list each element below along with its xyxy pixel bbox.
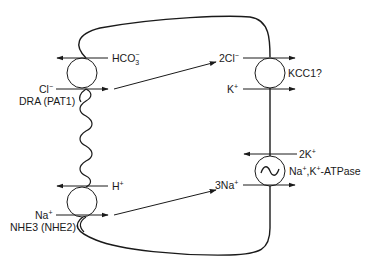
cl-label: Cl− <box>39 83 53 95</box>
nhe3-transporter: H+ Na+ NHE3 (NHE2) <box>10 180 124 233</box>
na-transcellular-arrow <box>114 190 216 215</box>
cl-transcellular-arrow <box>114 62 216 89</box>
apical-membrane-wave-dra <box>80 89 86 102</box>
dra-circle <box>67 58 97 88</box>
nak-atpase-name-label: Na+,K+-ATPase <box>289 165 361 177</box>
dra-name-label: DRA (PAT1) <box>19 95 75 107</box>
cell-membrane-bottom <box>77 216 270 255</box>
ion-transport-diagram: HCO3− Cl− DRA (PAT1) H+ Na+ NHE3 (NHE2) … <box>0 0 371 267</box>
kcc1-name-label: KCC1? <box>288 67 322 79</box>
nhe3-name-label: NHE3 (NHE2) <box>10 221 76 233</box>
apical-membrane-wavy <box>80 89 92 187</box>
2k-label: 2K+ <box>299 148 316 160</box>
nak-atpase: 2K+ 3Na+ Na+,K+-ATPase <box>215 148 361 191</box>
kcc1-circle <box>255 58 285 88</box>
2cl-label: 2Cl− <box>219 52 239 64</box>
3na-label: 3Na+ <box>215 179 238 191</box>
k-label: K+ <box>227 83 238 95</box>
hco3-label: HCO3− <box>112 51 139 66</box>
cell-membrane-top <box>79 16 270 58</box>
kcc1-transporter: 2Cl− K+ KCC1? <box>219 52 322 95</box>
h-label: H+ <box>112 180 124 192</box>
nhe3-circle <box>67 187 97 217</box>
na-label: Na+ <box>35 209 53 221</box>
